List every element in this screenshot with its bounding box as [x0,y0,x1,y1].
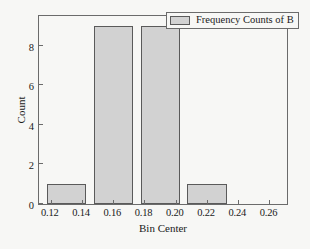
plot-area [38,15,288,205]
x-tick-label: 0.22 [197,207,215,218]
y-axis-title: Count [15,97,27,124]
x-tick-label: 0.14 [72,207,90,218]
histogram-bar [94,26,133,204]
histogram-bar [47,184,86,204]
x-tick-label: 0.16 [103,207,121,218]
x-axis-title: Bin Center [139,222,187,234]
legend: Frequency Counts of B [166,12,299,29]
x-tick-label: 0.20 [166,207,184,218]
y-tick-mark [39,203,43,204]
y-tick-label: 4 [29,120,34,131]
x-tick-mark [238,200,239,204]
histogram-bar [141,26,180,204]
x-tick-mark [144,200,145,204]
legend-swatch-icon [170,16,190,25]
x-tick-mark [113,200,114,204]
y-tick-label: 0 [29,200,34,211]
y-tick-mark [39,124,43,125]
histogram-chart: Count 02468 0.120.140.160.180.200.220.24… [0,0,310,249]
plot-inner [39,16,287,204]
x-tick-label: 0.18 [135,207,153,218]
y-tick-label: 8 [29,41,34,52]
x-tick-label: 0.24 [228,207,246,218]
x-tick-mark [176,200,177,204]
x-tick-mark [82,200,83,204]
y-tick-label: 6 [29,81,34,92]
x-tick-mark [207,200,208,204]
x-tick-label: 0.12 [41,207,59,218]
x-tick-label: 0.26 [260,207,278,218]
y-tick-mark [39,45,43,46]
x-tick-mark [269,200,270,204]
y-tick-mark [39,84,43,85]
y-tick-label: 2 [29,160,34,171]
x-tick-mark [51,200,52,204]
y-tick-mark [39,163,43,164]
legend-label: Frequency Counts of B [196,15,294,26]
